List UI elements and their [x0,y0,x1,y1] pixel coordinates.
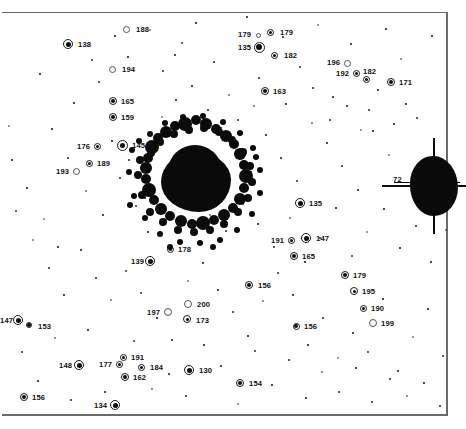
field-star [21,351,23,353]
source-label-184: 184 [150,364,163,372]
field-star [289,217,290,218]
core-star-blob [200,113,206,119]
core-star-blob [147,149,155,157]
field-star [355,367,356,368]
source-marker-ring [109,66,116,73]
source-label-179: 179 [280,29,293,37]
field-star [326,142,327,143]
source-label-156: 156 [32,394,45,402]
source-label-165: 165 [302,253,315,261]
source-marker-dot [355,72,358,75]
field-star [271,384,272,385]
field-star [346,105,347,106]
field-star [104,391,105,392]
source-marker-dot [294,324,298,328]
field-star [149,29,150,30]
source-marker-dot [238,381,242,385]
source-label-191: 191 [131,354,144,362]
field-star [127,56,128,57]
source-label-147: 147 [316,235,329,243]
source-marker-dot [292,254,296,258]
source-label-138: 138 [78,41,91,49]
field-star [352,332,353,333]
source-marker-dot [169,248,172,251]
field-star [335,207,336,208]
field-star [119,177,121,179]
field-star [262,300,263,301]
field-star [383,208,384,209]
core-star-blob [249,211,255,217]
field-star [399,247,400,248]
field-star [427,308,428,309]
field-star [445,229,446,230]
source-marker-dot [256,44,262,50]
source-label-134: 134 [94,402,107,410]
core-star-blob [140,162,152,174]
core-star-blob [146,208,154,216]
core-star-blob [185,126,193,134]
plate-frame-bottom [2,414,448,416]
field-star [15,210,17,212]
source-label-171: 171 [399,79,412,87]
core-star-blob [170,130,178,138]
field-star [321,371,322,372]
core-star-blob [147,131,153,137]
source-label-178: 178 [178,246,191,254]
field-star [265,134,266,135]
source-label-135: 135 [309,200,322,208]
field-star [389,378,391,380]
core-star-blob [162,120,168,126]
source-label-188: 188 [136,26,149,34]
source-marker-dot [389,80,393,84]
field-star [114,35,115,36]
core-star-blob [228,136,236,144]
field-star [254,350,256,352]
field-star [37,380,38,381]
core-star-blob [197,240,203,246]
core-star-blob [248,178,256,186]
source-marker-dot [186,318,189,321]
field-star [439,405,441,407]
field-star [258,77,260,79]
field-star [288,359,290,361]
field-star [195,22,196,23]
field-star [11,159,12,160]
source-label-156: 156 [304,323,317,331]
field-star [48,267,50,269]
field-star [329,119,331,121]
plate-frame-top [2,12,447,13]
field-star [232,311,234,313]
field-star [341,165,343,167]
field-star [312,87,314,89]
field-star [57,246,58,247]
source-label-156: 156 [258,282,271,290]
core-star-blob [157,231,163,237]
field-star [338,391,340,393]
source-label-199: 199 [381,320,394,328]
source-label-130: 130 [199,367,212,375]
field-star [140,292,142,294]
field-star [397,370,398,371]
source-marker-dot [187,368,192,373]
source-label-153: 153 [38,323,51,331]
field-star [87,329,88,330]
source-label-176: 176 [77,143,90,151]
source-marker-dot [77,363,82,368]
field-star [217,289,218,290]
source-label-159: 159 [121,114,134,122]
field-star [91,59,93,61]
source-marker-ring [369,319,377,327]
core-star-blob [234,208,242,216]
field-star [185,395,187,397]
source-label-145: 145 [132,142,145,150]
source-marker-ring [73,168,80,175]
field-star [63,294,64,295]
source-marker-dot [111,99,115,103]
source-label-193: 193 [56,168,69,176]
field-star [405,103,406,104]
field-star [156,317,157,318]
source-marker-dot [365,78,368,81]
core-star-blob [220,119,226,125]
source-label-182: 182 [284,52,297,60]
source-marker-dot [96,145,99,148]
